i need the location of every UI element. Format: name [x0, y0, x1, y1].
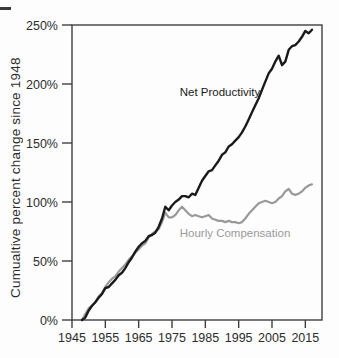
x-tick-label: 1945 — [58, 331, 86, 345]
y-tick-label: 50% — [33, 255, 58, 269]
plot-frame — [72, 25, 322, 320]
y-tick-label: 250% — [26, 19, 58, 33]
net-productivity-line — [82, 30, 312, 320]
x-tick-label: 2015 — [291, 331, 319, 345]
y-tick-label: 200% — [26, 78, 58, 92]
y-tick-label: 100% — [26, 196, 58, 210]
x-tick-label: 1985 — [191, 331, 219, 345]
x-tick-label: 1965 — [125, 331, 153, 345]
x-tick-label: 2005 — [258, 331, 286, 345]
y-tick-label: 150% — [26, 137, 58, 151]
y-tick-label: 0% — [40, 314, 58, 328]
hourly-compensation-line — [82, 184, 312, 320]
productivity-pay-gap-chart: Cumualtive percent change since 1948 194… — [0, 0, 339, 358]
hourly-compensation-label: Hourly Compensation — [180, 227, 291, 239]
line-chart-plot-area: 194519551965197519851995200520150%50%100… — [0, 0, 339, 358]
net-productivity-label: Net Productivity — [180, 86, 261, 98]
x-tick-label: 1975 — [158, 331, 186, 345]
x-tick-label: 1995 — [225, 331, 253, 345]
x-tick-label: 1955 — [91, 331, 119, 345]
